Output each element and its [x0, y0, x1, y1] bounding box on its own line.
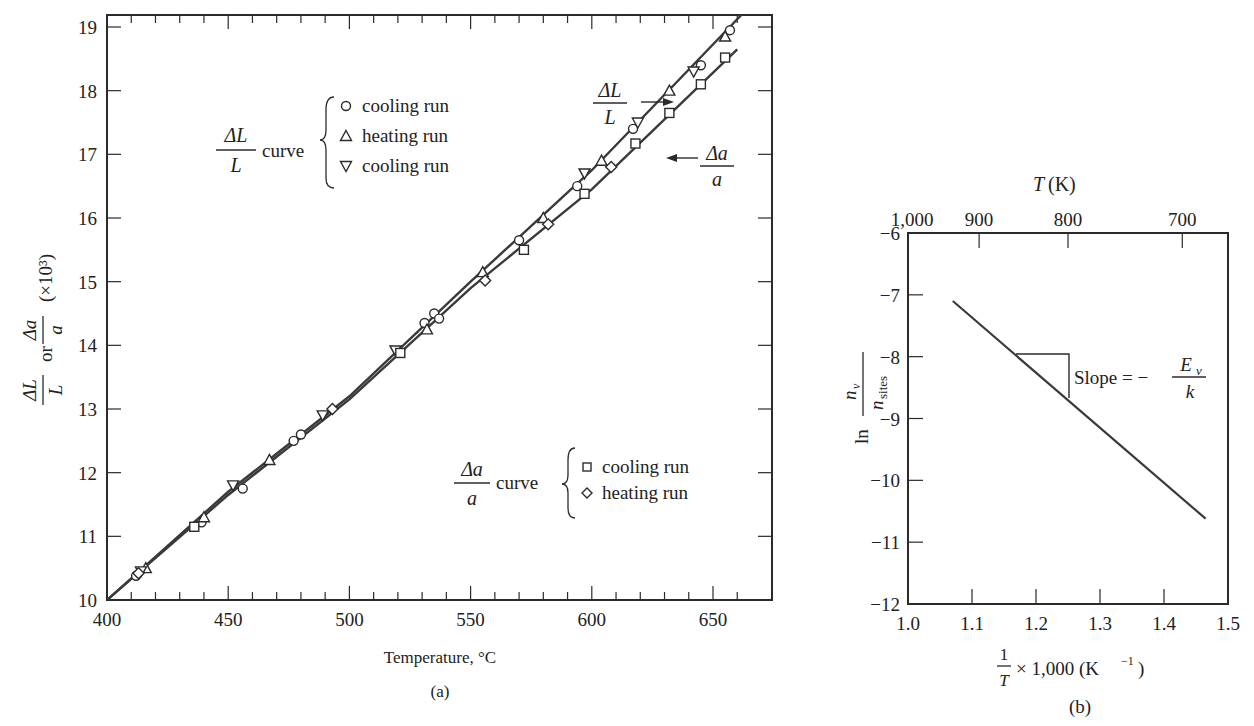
- x-label-fraction: 1T: [997, 645, 1011, 690]
- fraction-numerator: Δa: [460, 458, 483, 480]
- triangle-down-marker: [341, 162, 352, 172]
- legend-dl-word: curve: [262, 140, 304, 161]
- y-tick-label: 15: [78, 272, 97, 293]
- arrow-left-head-icon: [666, 154, 677, 162]
- legend-da: Δaacurvecooling runheating run: [454, 448, 690, 518]
- y-label-num: n: [839, 391, 860, 401]
- square-marker: [396, 348, 405, 357]
- chart-b-frame: [908, 233, 1228, 604]
- annotation-dl-fraction: ΔLL: [593, 79, 627, 128]
- top-axis-label: T(K): [1033, 173, 1076, 196]
- circle-marker: [342, 102, 351, 111]
- x-tick-label: 1.3: [1088, 613, 1112, 634]
- fraction-denominator: L: [603, 106, 615, 128]
- x-tick-label: 1.0: [896, 613, 920, 634]
- slope-annotation: Slope = −Evk: [1074, 354, 1206, 402]
- slope-text: Slope = −: [1074, 367, 1148, 388]
- y-label-den: n: [866, 401, 887, 411]
- x-axis-label: Temperature, °C: [384, 648, 496, 667]
- top-tick-label: 1,000: [891, 209, 934, 230]
- x-axis-label: 1T× 1,000 (K−1): [997, 645, 1144, 690]
- legend-da-word: curve: [496, 472, 538, 493]
- slope-num-sub: v: [1196, 363, 1202, 378]
- chart-b-caption: (b): [1069, 696, 1091, 718]
- square-marker: [631, 139, 640, 148]
- y-tick-label: −12: [870, 594, 900, 615]
- y-tick-label: 11: [79, 526, 97, 547]
- x-tick-label: 450: [214, 609, 243, 630]
- top-axis-var: T: [1033, 173, 1046, 195]
- circle-marker: [515, 236, 524, 245]
- fraction-numerator: Δa: [19, 320, 40, 342]
- y-label-scale: (×10³): [35, 254, 57, 302]
- square-marker: [696, 80, 705, 89]
- chart-b: 1.01.11.21.31.41.5−6−7−8−9−10−11−121,000…: [839, 173, 1240, 718]
- ln-line: [953, 301, 1206, 519]
- circle-marker: [289, 436, 298, 445]
- fraction-numerator: 1: [1000, 645, 1009, 664]
- slope-num: E: [1179, 354, 1192, 375]
- annotation-da-fraction: Δaa: [700, 142, 734, 190]
- y-tick-label: 19: [78, 17, 97, 38]
- slope-den: k: [1186, 381, 1195, 402]
- x-label-rest: × 1,000 (K: [1016, 658, 1099, 680]
- square-marker: [519, 245, 528, 254]
- circle-marker: [435, 314, 444, 323]
- diamond-marker: [582, 488, 592, 498]
- y-tick-label: −11: [871, 532, 900, 553]
- y-label-or: or: [35, 346, 56, 363]
- circle-marker: [296, 430, 305, 439]
- slope-triangle: [1016, 354, 1069, 398]
- square-marker: [665, 108, 674, 117]
- top-tick-label: 700: [1168, 209, 1197, 230]
- triangle-up-marker: [341, 131, 352, 141]
- legend-entry-label: heating run: [602, 482, 689, 503]
- y-label-num-sub: v: [849, 383, 863, 389]
- legend-entry-label: cooling run: [362, 155, 450, 176]
- y-label-den-sub: sites: [875, 376, 890, 399]
- legend-brace: [562, 448, 575, 518]
- fraction-denominator: a: [45, 325, 66, 335]
- square-marker: [583, 463, 591, 471]
- square-marker: [580, 189, 589, 198]
- y-tick-label: 18: [78, 81, 97, 102]
- x-tick-label: 1.5: [1216, 613, 1240, 634]
- y-tick-label: 13: [78, 399, 97, 420]
- figure: 40045050055060065010111213141516171819Te…: [0, 0, 1254, 726]
- legend-da-fraction: Δaa: [454, 458, 490, 509]
- legend-brace: [320, 97, 334, 188]
- fraction-denominator: a: [467, 487, 477, 509]
- chart-a: 40045050055060065010111213141516171819Te…: [19, 14, 772, 701]
- square-marker: [190, 522, 199, 531]
- x-tick-label: 550: [456, 609, 485, 630]
- fraction-numerator: ΔL: [598, 79, 622, 101]
- fraction-denominator: L: [229, 154, 241, 176]
- y-tick-label: 10: [78, 590, 97, 611]
- y-tick-label: 16: [78, 208, 97, 229]
- y-tick-label: 12: [78, 463, 97, 484]
- circle-marker: [238, 484, 247, 493]
- fraction-numerator: Δa: [705, 142, 728, 164]
- x-tick-label: 1.4: [1152, 613, 1176, 634]
- arrow-right-head-icon: [663, 98, 674, 106]
- y-label-fraction-1: ΔLL: [19, 375, 66, 405]
- y-tick-label: 17: [78, 144, 97, 165]
- y-tick-label: −7: [880, 285, 900, 306]
- top-tick-label: 900: [965, 209, 994, 230]
- x-label-close: ): [1138, 658, 1144, 680]
- y-tick-label: −9: [880, 409, 900, 430]
- legend-dl: ΔLLcurvecooling runheating runcooling ru…: [216, 95, 450, 188]
- y-axis-label: ΔLLorΔaa(×10³): [19, 254, 66, 405]
- y-tick-label: 14: [78, 335, 98, 356]
- y-label-ln: ln: [851, 429, 872, 444]
- legend-dl-fraction: ΔLL: [216, 124, 256, 176]
- square-marker: [721, 53, 730, 62]
- x-tick-label: 1.2: [1024, 613, 1048, 634]
- fraction-numerator: ΔL: [19, 379, 40, 402]
- legend-entry-label: cooling run: [362, 95, 450, 116]
- slope-fraction: Evk: [1172, 354, 1206, 402]
- x-tick-label: 600: [578, 609, 607, 630]
- chart-a-caption: (a): [431, 682, 450, 701]
- triangle-down-marker: [688, 67, 699, 77]
- legend-entry-label: heating run: [362, 125, 449, 146]
